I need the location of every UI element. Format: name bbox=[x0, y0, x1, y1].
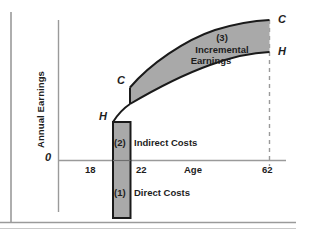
highschool-curve-label-right: H bbox=[278, 46, 286, 58]
highschool-curve-label-left: H bbox=[99, 111, 107, 123]
incremental-earnings-number: (3) bbox=[202, 33, 242, 43]
highschool-curve-early-segment bbox=[113, 104, 130, 122]
college-curve-label-right: C bbox=[278, 14, 286, 26]
direct-costs-label: Direct Costs bbox=[134, 188, 190, 198]
x-tick-18: 18 bbox=[85, 165, 96, 175]
x-tick-22: 22 bbox=[136, 165, 147, 175]
x-axis-label: Age bbox=[184, 165, 202, 175]
indirect-costs-number: (2) bbox=[114, 138, 126, 148]
x-tick-62: 62 bbox=[262, 165, 273, 175]
y-axis-label: Annual Earnings bbox=[36, 71, 46, 148]
college-curve-label-left: C bbox=[117, 75, 125, 87]
indirect-costs-label: Indirect Costs bbox=[134, 138, 197, 148]
incremental-earnings-label-line2: Earnings bbox=[180, 56, 242, 66]
incremental-earnings-label-line1: Incremental bbox=[185, 45, 259, 55]
origin-label: 0 bbox=[45, 152, 51, 164]
direct-costs-number: (1) bbox=[114, 188, 126, 198]
